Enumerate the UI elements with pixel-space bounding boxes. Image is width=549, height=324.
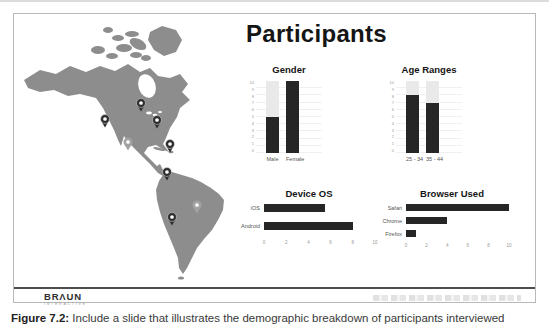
category-labels: MaleFemale: [246, 156, 324, 162]
label-Safari: Safari: [372, 205, 406, 211]
figure-caption-text: Include a slide that illustrates the dem…: [69, 312, 504, 324]
label-Firefox: Firefox: [372, 231, 406, 237]
gender-chart: Gender 109876543210MaleFemale: [246, 63, 324, 162]
device-os-chart: Device OS iOSAndroid0246810: [234, 188, 384, 246]
browser-used-chart-title: Browser Used: [372, 188, 532, 199]
footer-divider: [14, 287, 535, 289]
gender-chart-plot: 109876543210MaleFemale: [246, 81, 324, 162]
south-america-shape: [156, 172, 224, 274]
x-axis-ticks: 0246810: [264, 240, 375, 246]
gender-chart-title: Gender: [254, 63, 324, 75]
category-labels: 25 - 3435 - 44: [386, 156, 464, 162]
braun-logo: BRΛUN INTERACTIVE: [44, 292, 87, 306]
browser-used-chart: Browser Used SafariChromeFirefox0246810: [372, 188, 532, 249]
map-pin-us-west-coast: [101, 115, 110, 128]
bar-Firefox: [406, 230, 416, 237]
figure-caption: Figure 7.2: Include a slide that illustr…: [11, 311, 546, 324]
bar-Safari: [406, 204, 509, 211]
americas-map: [20, 22, 235, 294]
y-axis-ticks: 109876543210: [246, 81, 256, 153]
footer-fineprint: [373, 295, 521, 301]
age-ranges-chart: Age Ranges 10987654321025 - 3435 - 44: [386, 63, 464, 162]
bar-25 - 34: [406, 95, 419, 153]
braun-logo-wordmark: BRΛUN: [44, 292, 87, 302]
page-top-edge: [0, 0, 549, 2]
map-pin-mexico: [124, 138, 133, 151]
bar-Male: [266, 117, 279, 153]
figure-caption-label: Figure 7.2:: [11, 312, 69, 324]
label-iOS: iOS: [234, 205, 264, 211]
bar-track-Male: [266, 81, 279, 153]
bar-35 - 44: [426, 103, 439, 153]
bar-Female: [286, 81, 299, 153]
y-axis-ticks: 109876543210: [386, 81, 396, 153]
x-axis-ticks: 0246810: [406, 243, 509, 249]
device-os-chart-plot: iOSAndroid0246810: [234, 204, 384, 246]
bar-track-35 - 44: [426, 81, 439, 153]
presentation-slide: Participants: [13, 13, 536, 303]
browser-used-chart-plot: SafariChromeFirefox0246810: [372, 204, 532, 249]
age-ranges-chart-title: Age Ranges: [394, 63, 464, 75]
bar-track-25 - 34: [406, 81, 419, 153]
bar-track-Female: [286, 81, 299, 153]
bar-iOS: [264, 204, 325, 212]
age-ranges-chart-plot: 10987654321025 - 3435 - 44: [386, 81, 464, 162]
americas-map-svg: [20, 22, 235, 294]
greenland-shape: [148, 26, 182, 56]
label-Chrome: Chrome: [372, 218, 406, 224]
great-lakes: [146, 112, 152, 115]
braun-logo-tagline: INTERACTIVE: [44, 303, 87, 307]
device-os-chart-title: Device OS: [234, 188, 384, 199]
bar-Chrome: [406, 217, 447, 224]
label-Android: Android: [234, 223, 264, 229]
bar-Android: [264, 222, 353, 230]
slide-title: Participants: [219, 20, 414, 48]
